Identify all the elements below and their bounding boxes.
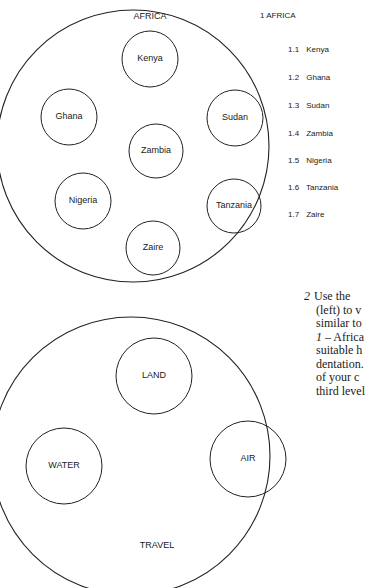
outline-item-label: Kenya	[306, 45, 329, 54]
country-circle-tanzania: Tanzania	[207, 179, 261, 233]
africa-title: AFRICA	[133, 11, 166, 21]
circle-label: AIR	[240, 453, 256, 463]
outline-item: 1.7 Zaire	[288, 210, 324, 219]
circle-label: Nigeria	[69, 195, 98, 205]
circle-label: Kenya	[137, 53, 163, 63]
outline-item-label: Sudan	[306, 101, 329, 110]
outline-heading: 1 AFRICA	[260, 11, 296, 20]
instruction-line: 2Use the	[304, 290, 389, 304]
circle-label: Sudan	[222, 112, 248, 122]
circle-label: Ghana	[55, 111, 82, 121]
outline-item-label: Tanzania	[306, 183, 338, 192]
travel-circle-land: LAND	[116, 338, 192, 414]
outline-item-number: 1.4	[288, 129, 304, 138]
country-circle-zaire: Zaire	[126, 221, 180, 275]
outline-item: 1.1 Kenya	[288, 45, 329, 54]
country-circle-kenya: Kenya	[122, 31, 178, 87]
circle-label: Zaire	[143, 242, 164, 252]
instruction-text: Use the	[314, 289, 350, 303]
africa-country-circles: Kenya Ghana Sudan Zambia Nigeria Tanzani…	[41, 31, 263, 275]
outline-item: 1.4 Zambia	[288, 129, 333, 138]
outline-item-number: 1.6	[288, 183, 304, 192]
instruction-line: dentation.	[316, 358, 389, 372]
travel-title: TRAVEL	[140, 540, 174, 550]
instruction-line: of your c	[316, 371, 389, 385]
country-circle-ghana: Ghana	[41, 89, 97, 145]
travel-outer-circle	[0, 317, 270, 588]
outline-item-number: 1.7	[288, 210, 304, 219]
outline-item: 1.5 Nigeria	[288, 156, 332, 165]
instruction-line: similar to	[316, 317, 389, 331]
outline-item-number: 1.1	[288, 45, 304, 54]
outline-item-number: 1.5	[288, 156, 304, 165]
outline-item: 1.2 Ghana	[288, 73, 330, 82]
outline-item-label: Zambia	[306, 129, 333, 138]
outline-item-number: 1.2	[288, 73, 304, 82]
africa-outer-circle	[0, 10, 269, 282]
instruction-paragraph: 2Use the (left) to v similar to 1 – Afri…	[316, 290, 389, 398]
instruction-line: suitable h	[316, 344, 389, 358]
instruction-line: third level	[316, 385, 389, 399]
travel-mode-circles: LAND WATER AIR	[26, 338, 286, 504]
country-circle-nigeria: Nigeria	[55, 173, 111, 229]
instruction-line: (left) to v	[316, 304, 389, 318]
instruction-line: 1 – Africa	[316, 331, 389, 345]
outline-item-number: 1.3	[288, 101, 304, 110]
circle-label: LAND	[142, 370, 167, 380]
outline-item-label: Zaire	[306, 210, 324, 219]
circle-label: WATER	[48, 460, 80, 470]
circle-label: Tanzania	[216, 200, 252, 210]
travel-circle-water: WATER	[26, 428, 102, 504]
outline-item: 1.3 Sudan	[288, 101, 329, 110]
circle-label: Zambia	[141, 145, 171, 155]
instruction-number: 2	[304, 289, 310, 303]
travel-circle-air: AIR	[210, 421, 286, 497]
country-circle-sudan: Sudan	[207, 90, 263, 146]
outline-item: 1.6 Tanzania	[288, 183, 338, 192]
outline-item-label: Ghana	[306, 73, 330, 82]
outline-item-label: Nigeria	[306, 156, 331, 165]
country-circle-zambia: Zambia	[129, 124, 183, 178]
